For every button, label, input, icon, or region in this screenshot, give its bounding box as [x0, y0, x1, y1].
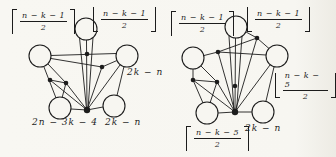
- fraction: n − k − 5 2: [191, 126, 244, 151]
- fraction-numerator: n − k − 5: [283, 71, 328, 91]
- floor-bracket-right: [305, 7, 310, 32]
- floor-bracket-right: [331, 73, 336, 98]
- fraction: n − k − 1 2: [17, 9, 70, 34]
- vertex-dot: [215, 80, 220, 85]
- fraction-denominator: 2: [303, 91, 309, 101]
- graph-node-circle: [182, 47, 204, 69]
- graph-edge: [51, 59, 102, 68]
- floor-bracket-right: [151, 7, 156, 32]
- vertex-dot: [85, 52, 90, 57]
- graph-node-circle: [29, 45, 51, 67]
- graph-node-circle: [266, 45, 288, 67]
- graph-edge: [201, 66, 217, 82]
- ceiling-bracket-right: [70, 9, 75, 34]
- graph-edge: [237, 37, 243, 112]
- fraction-numerator: n − k − 1: [179, 13, 226, 24]
- fraction-denominator: 2: [200, 24, 206, 34]
- vertex-dot: [216, 50, 221, 55]
- graph-node-circle: [116, 45, 138, 67]
- right-graph-right-size-label: n − k − 5 2: [275, 73, 336, 98]
- fraction: n − k − 5 2: [280, 73, 331, 98]
- hub-vertex-dot: [84, 107, 90, 113]
- graph-edge: [218, 52, 266, 55]
- fraction-denominator: 2: [41, 22, 47, 32]
- fraction-numerator: n − k − 1: [255, 9, 302, 20]
- graph-edge: [210, 82, 217, 103]
- graph-node-circle: [103, 95, 125, 117]
- left-graph-bottom-right-size-label: 2k − n: [105, 117, 141, 127]
- graph-edge: [235, 38, 236, 112]
- graph-edge: [51, 54, 116, 56]
- graph-edge: [117, 67, 124, 96]
- vertex-dot: [233, 84, 238, 89]
- graph-node-circle: [49, 97, 71, 119]
- graph-edge: [257, 38, 269, 49]
- right-graph-bottom-left-size-label: n − k − 5 2: [186, 126, 249, 151]
- graph-edge: [235, 38, 257, 112]
- graph-node-circle: [196, 102, 218, 124]
- graph-edge: [266, 67, 274, 101]
- left-graph-right-size-label: 2k − n: [127, 67, 163, 77]
- fraction: n − k − 1 2: [176, 11, 229, 36]
- fraction: n − k − 1 2: [252, 7, 305, 32]
- vertex-dot: [48, 78, 53, 83]
- graph-node-circle: [252, 101, 274, 123]
- graph-edge: [44, 67, 56, 98]
- fraction-numerator: n − k − 5: [194, 128, 241, 139]
- fraction-denominator: 2: [122, 20, 128, 30]
- two-weighted-graphs-figure: n − k − 1 2 n − k − 1 2 2k − n 2n − 3k −…: [0, 0, 336, 157]
- graph-edge: [218, 38, 257, 52]
- graph-edge: [193, 80, 217, 82]
- hub-vertex-dot: [232, 109, 238, 115]
- fraction: n − k − 1 2: [98, 7, 151, 32]
- left-graph-top-right-size-label: n − k − 1 2: [93, 7, 156, 32]
- right-graph-top-left-size-label: n − k − 1 2: [171, 11, 234, 36]
- graph-edge: [80, 38, 87, 110]
- vertex-dot: [64, 81, 69, 86]
- fraction-numerator: n − k − 1: [101, 9, 148, 20]
- vertex-dot: [191, 78, 196, 83]
- graph-edge: [102, 61, 117, 68]
- right-graph-top-right-size-label: n − k − 1 2: [247, 7, 310, 32]
- vertex-dot: [255, 36, 260, 41]
- graph-edge: [87, 40, 88, 110]
- fraction-denominator: 2: [276, 20, 282, 30]
- fraction-numerator: n − k − 1: [20, 11, 67, 22]
- ceiling-bracket-right: [229, 11, 234, 36]
- fraction-denominator: 2: [215, 139, 221, 149]
- left-graph-top-left-size-label: n − k − 1 2: [12, 9, 75, 34]
- left-graph-bottom-left-size-label: 2n − 3k − 4: [32, 117, 98, 127]
- vertex-dot: [100, 65, 105, 70]
- right-graph-bottom-right-size-label: 2k − n: [245, 123, 281, 133]
